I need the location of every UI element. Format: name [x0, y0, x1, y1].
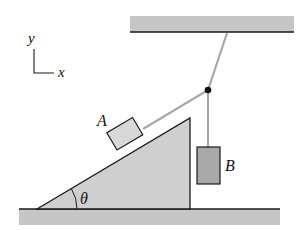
angle-label: θ [80, 190, 88, 207]
ceiling [130, 16, 294, 32]
block-a [107, 117, 143, 150]
block-b-label: B [225, 157, 235, 174]
rope-to-block-a [143, 90, 208, 129]
floor [19, 209, 280, 225]
block-a-label: A [96, 112, 107, 129]
coordinate-axes [34, 49, 54, 73]
physics-diagram: θ A B y x [0, 0, 307, 230]
rope-ceiling [208, 33, 227, 90]
y-axis-label: y [26, 30, 35, 46]
knot [205, 87, 212, 94]
x-axis-label: x [57, 64, 65, 80]
block-b [197, 147, 220, 184]
